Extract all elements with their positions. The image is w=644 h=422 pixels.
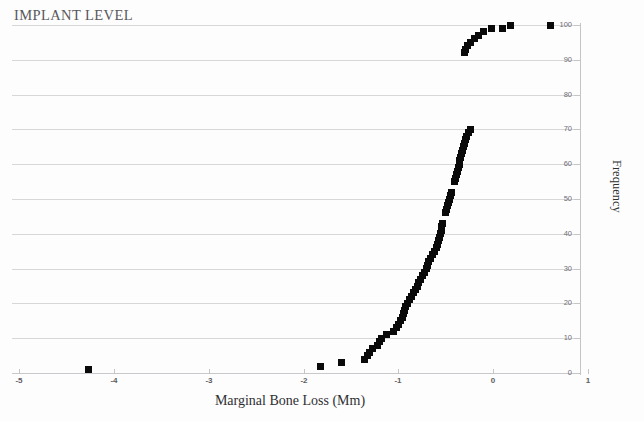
- chart-page: IMPLANT LEVEL 0102030405060708090100 -5-…: [0, 0, 644, 422]
- y-tick-mark: [574, 234, 580, 235]
- y-tick-mark: [574, 269, 580, 270]
- gridline: [12, 164, 580, 165]
- x-tick-label: -5: [7, 376, 31, 385]
- x-tick-mark: [209, 369, 210, 374]
- data-point: [488, 25, 495, 32]
- y-tick-label: 60: [556, 159, 572, 168]
- gridline: [12, 129, 580, 130]
- gridline: [12, 199, 580, 200]
- y-tick-label: 80: [556, 90, 572, 99]
- y-tick-mark: [574, 303, 580, 304]
- y-tick-label: 10: [556, 333, 572, 342]
- x-tick-label: -3: [197, 376, 221, 385]
- data-point: [467, 126, 474, 133]
- y-axis-title: Frequency: [609, 160, 624, 260]
- data-point: [507, 22, 514, 29]
- y-tick-label: 0: [556, 368, 572, 377]
- x-tick-label: -4: [102, 376, 126, 385]
- x-tick-mark: [588, 369, 589, 374]
- y-tick-mark: [574, 95, 580, 96]
- x-tick-label: 1: [576, 376, 600, 385]
- x-tick-mark: [304, 369, 305, 374]
- y-tick-mark: [574, 164, 580, 165]
- data-point: [338, 359, 345, 366]
- x-tick-label: -1: [386, 376, 410, 385]
- data-point: [448, 189, 455, 196]
- gridline: [12, 234, 580, 235]
- y-tick-mark: [574, 199, 580, 200]
- gridline: [12, 303, 580, 304]
- data-point: [499, 25, 506, 32]
- gridline: [12, 269, 580, 270]
- y-tick-label: 100: [556, 20, 572, 29]
- y-tick-label: 90: [556, 55, 572, 64]
- data-point: [317, 363, 324, 370]
- y-tick-mark: [574, 373, 580, 374]
- x-tick-label: 0: [481, 376, 505, 385]
- y-tick-mark: [574, 25, 580, 26]
- data-point: [85, 366, 92, 373]
- x-tick-mark: [398, 369, 399, 374]
- y-tick-label: 40: [556, 229, 572, 238]
- x-tick-mark: [114, 369, 115, 374]
- y-tick-mark: [574, 338, 580, 339]
- data-point: [439, 220, 446, 227]
- data-point: [480, 28, 487, 35]
- gridline: [12, 25, 580, 26]
- y-tick-mark: [574, 60, 580, 61]
- data-point: [547, 22, 554, 29]
- y-tick-label: 50: [556, 194, 572, 203]
- x-tick-mark: [493, 369, 494, 374]
- x-tick-mark: [19, 369, 20, 374]
- y-axis-line: [580, 23, 581, 375]
- gridline: [12, 373, 580, 374]
- gridline: [12, 95, 580, 96]
- x-tick-label: -2: [292, 376, 316, 385]
- x-axis-title: Marginal Bone Loss (Mm): [0, 393, 580, 409]
- y-tick-label: 70: [556, 124, 572, 133]
- gridline: [12, 338, 580, 339]
- gridline: [12, 60, 580, 61]
- plot-area: 0102030405060708090100 -5-4-3-2-101: [0, 0, 644, 422]
- y-tick-label: 30: [556, 264, 572, 273]
- y-tick-label: 20: [556, 298, 572, 307]
- y-tick-mark: [574, 129, 580, 130]
